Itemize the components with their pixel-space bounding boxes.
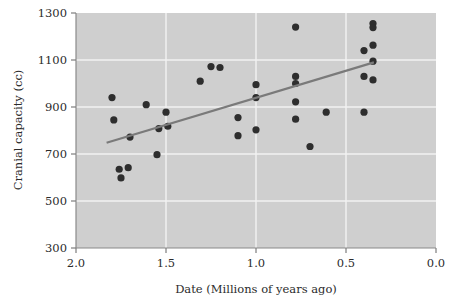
x-tick-label: 0.0	[427, 256, 445, 270]
data-point	[234, 114, 241, 121]
data-point	[162, 109, 169, 116]
data-point	[369, 24, 376, 31]
data-point	[143, 101, 150, 108]
data-point	[153, 151, 160, 158]
data-point	[306, 143, 313, 150]
data-point	[369, 42, 376, 49]
data-point	[360, 73, 367, 80]
x-tick-label: 1.0	[247, 256, 265, 270]
data-point	[116, 166, 123, 173]
data-point	[117, 174, 124, 181]
cranial-capacity-scatter-figure: 130011009007005003002.01.51.00.50.0 Date…	[0, 0, 466, 307]
y-tick-label: 900	[45, 100, 67, 114]
data-point	[110, 116, 117, 123]
data-point	[292, 73, 299, 80]
data-point	[108, 94, 115, 101]
data-point	[292, 24, 299, 31]
y-tick-label: 1100	[38, 53, 67, 67]
data-point	[207, 63, 214, 70]
data-point	[360, 109, 367, 116]
data-point	[197, 78, 204, 85]
data-point	[125, 164, 132, 171]
y-axis-title: Cranial capacity (cc)	[11, 70, 25, 191]
data-point	[252, 126, 259, 133]
y-tick-label: 300	[45, 241, 67, 255]
data-point	[216, 64, 223, 71]
data-point	[360, 47, 367, 54]
x-tick-label: 0.5	[337, 256, 355, 270]
y-tick-label: 1300	[38, 6, 67, 20]
data-point	[323, 109, 330, 116]
chart-canvas: 130011009007005003002.01.51.00.50.0 Date…	[0, 0, 466, 307]
data-point	[292, 116, 299, 123]
data-point	[252, 81, 259, 88]
data-point	[234, 132, 241, 139]
data-point	[369, 76, 376, 83]
x-tick-label: 2.0	[67, 256, 85, 270]
x-tick-label: 1.5	[157, 256, 175, 270]
data-point	[292, 98, 299, 105]
x-axis-title: Date (Millions of years ago)	[175, 282, 337, 296]
y-tick-label: 700	[45, 147, 67, 161]
y-tick-label: 500	[45, 194, 67, 208]
